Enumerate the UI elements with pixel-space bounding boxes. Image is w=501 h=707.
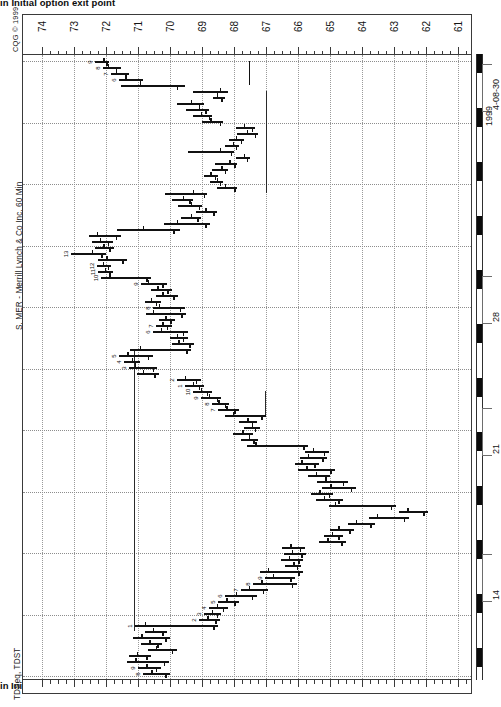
time-gridline bbox=[23, 369, 471, 370]
table-row[interactable] bbox=[135, 625, 218, 630]
td-count-label: 7 bbox=[103, 70, 109, 78]
table-row[interactable] bbox=[260, 571, 303, 576]
table-row[interactable] bbox=[265, 577, 295, 582]
table-row[interactable] bbox=[172, 199, 193, 204]
price-tick-minor bbox=[194, 51, 195, 55]
table-row[interactable] bbox=[319, 541, 346, 546]
price-gridline bbox=[330, 55, 331, 679]
table-row[interactable] bbox=[225, 145, 239, 150]
table-row[interactable] bbox=[317, 481, 347, 486]
table-row[interactable] bbox=[225, 415, 267, 420]
table-row[interactable] bbox=[210, 181, 223, 186]
table-row[interactable] bbox=[95, 247, 114, 252]
table-row[interactable] bbox=[247, 445, 308, 450]
table-row[interactable] bbox=[225, 595, 257, 600]
table-row[interactable] bbox=[71, 253, 106, 258]
table-row[interactable] bbox=[330, 529, 354, 534]
table-row[interactable] bbox=[153, 331, 188, 336]
table-row[interactable] bbox=[193, 91, 228, 96]
table-row[interactable] bbox=[145, 631, 167, 636]
table-row[interactable] bbox=[244, 427, 260, 432]
table-row[interactable] bbox=[133, 637, 170, 642]
time-axis[interactable]: 4-08-301999282114 bbox=[472, 14, 492, 694]
table-row[interactable] bbox=[141, 283, 167, 288]
table-row[interactable] bbox=[121, 85, 185, 90]
table-row[interactable] bbox=[236, 127, 255, 132]
table-row[interactable] bbox=[218, 601, 239, 606]
table-row[interactable] bbox=[199, 619, 220, 624]
bar-open-tick bbox=[143, 370, 145, 373]
table-row[interactable] bbox=[311, 493, 333, 498]
price-tick-minor bbox=[226, 51, 227, 55]
table-row[interactable] bbox=[196, 211, 217, 216]
price-tick-minor bbox=[178, 51, 179, 55]
table-row[interactable] bbox=[156, 295, 178, 300]
table-row[interactable] bbox=[193, 115, 212, 120]
bar-open-tick bbox=[316, 472, 318, 475]
table-row[interactable] bbox=[229, 139, 243, 144]
bar-close-tick bbox=[324, 453, 326, 456]
table-row[interactable] bbox=[239, 421, 257, 426]
table-row[interactable] bbox=[165, 193, 207, 198]
table-row[interactable] bbox=[236, 157, 250, 162]
table-row[interactable] bbox=[178, 205, 202, 210]
table-row[interactable] bbox=[281, 559, 303, 564]
bar-range bbox=[170, 337, 188, 339]
price-tick-minor bbox=[354, 680, 355, 684]
table-row[interactable] bbox=[322, 487, 356, 492]
table-row[interactable] bbox=[89, 235, 121, 240]
table-row[interactable] bbox=[141, 643, 162, 648]
bar-open-tick bbox=[162, 292, 164, 295]
table-row[interactable] bbox=[329, 505, 396, 510]
table-row[interactable] bbox=[137, 373, 159, 378]
table-row[interactable] bbox=[164, 223, 210, 228]
bar-range bbox=[212, 403, 230, 405]
price-tick-label: 67 bbox=[261, 16, 272, 38]
price-tick-minor bbox=[290, 680, 291, 684]
table-row[interactable] bbox=[117, 229, 179, 234]
table-row[interactable] bbox=[212, 169, 228, 174]
bar-open-tick bbox=[338, 526, 340, 529]
table-row[interactable] bbox=[213, 97, 224, 102]
table-row[interactable] bbox=[129, 655, 151, 660]
table-row[interactable] bbox=[348, 523, 375, 528]
table-row[interactable] bbox=[172, 343, 194, 348]
table-row[interactable] bbox=[138, 667, 160, 672]
table-row[interactable] bbox=[285, 565, 301, 570]
bar-close-tick bbox=[165, 639, 167, 642]
chart-frame[interactable]: 7473727170696867666564636261 98761312111… bbox=[22, 14, 472, 694]
table-row[interactable] bbox=[143, 673, 170, 678]
bar-open-tick bbox=[159, 304, 161, 307]
table-row[interactable] bbox=[233, 433, 254, 438]
bar-range bbox=[159, 319, 175, 321]
td-count-label: 9 bbox=[133, 280, 139, 288]
table-row[interactable] bbox=[188, 151, 234, 156]
bar-range bbox=[141, 643, 162, 645]
session-block bbox=[477, 216, 482, 235]
table-row[interactable] bbox=[399, 511, 428, 516]
table-row[interactable] bbox=[300, 457, 327, 462]
table-row[interactable] bbox=[316, 499, 343, 504]
table-row[interactable] bbox=[218, 409, 239, 414]
table-row[interactable] bbox=[181, 217, 200, 222]
table-row[interactable] bbox=[237, 133, 258, 138]
table-row[interactable] bbox=[215, 163, 237, 168]
table-row[interactable] bbox=[253, 583, 296, 588]
price-tick-minor bbox=[314, 51, 315, 55]
table-row[interactable] bbox=[284, 553, 306, 558]
table-row[interactable] bbox=[153, 307, 185, 312]
table-row[interactable] bbox=[130, 349, 191, 354]
table-row[interactable] bbox=[241, 589, 268, 594]
table-row[interactable] bbox=[186, 109, 208, 114]
table-row[interactable] bbox=[156, 325, 172, 330]
table-row[interactable] bbox=[101, 277, 151, 282]
table-row[interactable] bbox=[369, 517, 409, 522]
table-row[interactable] bbox=[148, 649, 177, 654]
table-row[interactable] bbox=[282, 547, 304, 552]
table-row[interactable] bbox=[202, 121, 223, 126]
bar-open-tick bbox=[252, 424, 254, 427]
table-row[interactable] bbox=[217, 187, 238, 192]
price-tick-minor bbox=[282, 51, 283, 55]
table-row[interactable] bbox=[119, 355, 153, 360]
plot-area[interactable]: 9876131211109876543211098798765432198 bbox=[23, 55, 471, 679]
